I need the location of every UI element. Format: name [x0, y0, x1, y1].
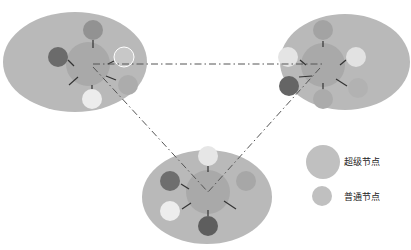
normal-node	[198, 146, 218, 166]
normal-node	[198, 216, 218, 236]
cluster-left	[3, 12, 147, 112]
normal-node	[82, 89, 102, 109]
normal-node	[118, 75, 138, 95]
normal-node	[160, 201, 180, 221]
normal-node	[160, 171, 180, 191]
normal-node	[48, 47, 68, 67]
normal-node	[83, 20, 103, 40]
legend-super-node-icon	[306, 145, 340, 179]
legend	[306, 145, 340, 206]
legend-super-node-label: 超级节点	[344, 155, 380, 168]
cluster-bottom	[142, 146, 272, 244]
legend-normal-node-label: 普通节点	[344, 190, 380, 203]
p2p-topology-diagram	[0, 0, 411, 250]
normal-node	[236, 171, 256, 191]
normal-node	[313, 20, 333, 40]
cluster-right	[278, 14, 410, 110]
normal-node	[313, 89, 333, 109]
normal-node	[279, 76, 299, 96]
cluster-right-background	[280, 14, 410, 110]
normal-node	[348, 78, 368, 98]
legend-normal-node-icon	[312, 186, 332, 206]
normal-node	[346, 47, 366, 67]
